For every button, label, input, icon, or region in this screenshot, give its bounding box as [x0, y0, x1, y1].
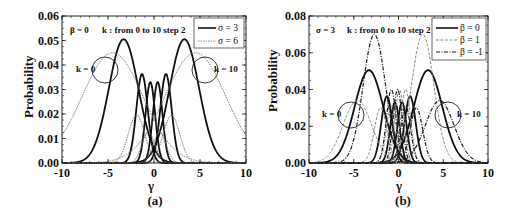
y-tick-label: 0.06	[285, 46, 306, 60]
k0-label-b: k = 0	[322, 109, 342, 119]
panel-label-b: (b)	[395, 193, 411, 208]
x-axis-label-b: γ	[395, 178, 402, 193]
k-range-label-b: k : from 0 to 10 step 2	[347, 25, 431, 35]
param-label-b: σ = 3	[316, 25, 336, 35]
curves-a	[62, 39, 246, 163]
y-tick-label: 0.04	[38, 58, 59, 72]
panel-label-a: (a)	[147, 193, 162, 208]
x-tick-label: -5	[349, 166, 359, 180]
legend-entry-sigma6: σ = 6	[218, 36, 238, 46]
y-tick-label: 0.00	[285, 156, 306, 170]
y-tick-label: 0.02	[38, 107, 59, 121]
y-tick-label: 0.00	[38, 156, 59, 170]
legend-entry-beta0: β = 0	[460, 23, 480, 33]
k0-label-a: k = 0	[76, 64, 96, 74]
figure: -10-505100.000.010.020.030.040.050.06 β …	[0, 0, 510, 217]
y-tick-label: 0.08	[285, 9, 306, 23]
legend-entry-beta-minus1: β = -1	[460, 47, 483, 57]
x-tick-label: 10	[240, 166, 252, 180]
y-tick-label: 0.02	[285, 119, 306, 133]
panel-b: -10-505100.000.020.040.060.08 σ = 3 k : …	[265, 9, 494, 208]
y-tick-label: 0.06	[38, 9, 59, 23]
k10-label-b: k = 10	[457, 109, 481, 119]
y-axis-label-a: Probability	[21, 55, 36, 118]
y-axis-label-b: Probability	[265, 49, 280, 112]
x-tick-label: 5	[440, 166, 446, 180]
y-tick-label: 0.01	[38, 132, 59, 146]
x-tick-label: -5	[103, 166, 113, 180]
legend-a: σ = 3 σ = 6	[194, 18, 244, 48]
y-tick-label: 0.05	[38, 34, 59, 48]
k-range-label-a: k : from 0 to 10 step 2	[102, 25, 186, 35]
k0-circle-a	[92, 57, 118, 83]
y-tick-label: 0.04	[285, 83, 306, 97]
legend-entry-beta1: β = 1	[460, 35, 480, 45]
x-tick-label: 10	[482, 166, 494, 180]
x-axis-label-a: γ	[147, 178, 154, 193]
param-label-a: β = 0	[70, 25, 89, 35]
k10-label-a: k = 10	[214, 64, 238, 74]
legend-b: β = 0 β = 1 β = -1	[432, 18, 486, 60]
legend-entry-sigma3: σ = 3	[218, 23, 238, 33]
panel-a: -10-505100.000.010.020.030.040.050.06 β …	[21, 9, 252, 208]
x-tick-label: 5	[197, 166, 203, 180]
y-tick-label: 0.03	[38, 83, 59, 97]
